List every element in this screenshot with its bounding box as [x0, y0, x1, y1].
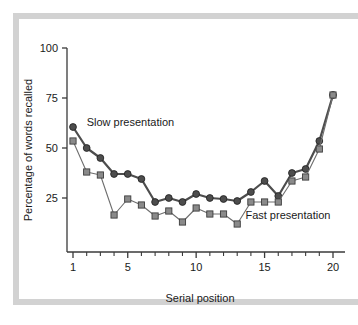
- data-point-marker: [84, 169, 90, 175]
- data-point-marker: [220, 211, 226, 217]
- data-point-marker: [275, 199, 281, 205]
- data-point-marker: [111, 212, 117, 218]
- series-annotation-label: Slow presentation: [87, 116, 174, 128]
- data-point-marker: [138, 202, 144, 208]
- data-point-marker: [247, 189, 254, 196]
- data-point-marker: [97, 172, 103, 178]
- data-point-marker: [206, 195, 213, 202]
- x-tick-label: 5: [125, 261, 131, 273]
- data-point-marker: [261, 178, 268, 185]
- data-point-marker: [193, 205, 199, 211]
- y-tick-label: 50: [46, 142, 58, 154]
- data-point-marker: [261, 199, 267, 205]
- y-tick-labels: 255075100: [40, 42, 58, 204]
- data-point-marker: [125, 196, 131, 202]
- series-annotation-label: Fast presentation: [245, 209, 330, 221]
- chart-series-group: [70, 92, 337, 228]
- data-point-marker: [316, 146, 322, 152]
- data-point-marker: [165, 195, 172, 202]
- data-point-marker: [193, 191, 200, 198]
- data-point-marker: [234, 198, 241, 205]
- data-point-marker: [152, 199, 159, 206]
- x-tick-label: 20: [327, 261, 339, 273]
- series-fast-presentation: [70, 92, 336, 227]
- data-point-marker: [124, 171, 131, 178]
- y-tick-label: 75: [46, 92, 58, 104]
- data-point-marker: [220, 196, 227, 203]
- x-tick-labels: 15101520: [70, 261, 339, 273]
- data-point-marker: [179, 199, 186, 206]
- data-point-marker: [97, 155, 104, 162]
- chart-annotations: Slow presentationFast presentation: [87, 116, 331, 221]
- y-axis-title: Percentage of words recalled: [22, 79, 34, 221]
- data-point-marker: [111, 171, 118, 178]
- x-tick-label: 1: [70, 261, 76, 273]
- data-point-marker: [234, 221, 240, 227]
- data-point-marker: [83, 145, 90, 152]
- data-point-marker: [138, 176, 145, 183]
- chart-axes: [62, 48, 345, 258]
- data-point-marker: [179, 219, 185, 225]
- line-chart: 255075100 15101520 Slow presentationFast…: [0, 0, 358, 325]
- data-point-marker: [70, 138, 76, 144]
- series-line: [73, 95, 333, 224]
- data-point-marker: [303, 174, 309, 180]
- figure-container: 255075100 15101520 Slow presentationFast…: [0, 0, 358, 325]
- data-point-marker: [207, 211, 213, 217]
- x-tick-label: 15: [258, 261, 270, 273]
- series-slow-presentation: [70, 92, 337, 206]
- data-point-marker: [289, 170, 296, 177]
- data-point-marker: [70, 124, 77, 131]
- x-tick-label: 10: [190, 261, 202, 273]
- y-tick-label: 100: [40, 42, 58, 54]
- series-line: [73, 95, 333, 202]
- data-point-marker: [166, 208, 172, 214]
- data-point-marker: [248, 199, 254, 205]
- data-point-marker: [152, 213, 158, 219]
- x-axis-title: Serial position: [165, 292, 234, 304]
- data-point-marker: [330, 92, 336, 98]
- y-tick-label: 25: [46, 192, 58, 204]
- data-point-marker: [289, 178, 295, 184]
